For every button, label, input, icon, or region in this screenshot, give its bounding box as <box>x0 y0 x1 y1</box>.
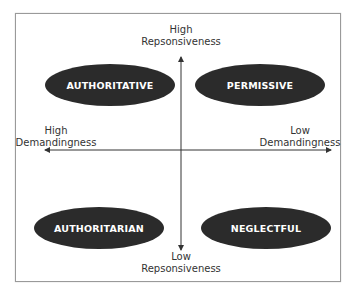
label-line: Low <box>256 125 344 137</box>
permissive-ellipse: PERMISSIVE <box>195 64 325 106</box>
label-line: Repsonsiveness <box>131 263 231 275</box>
label-line: High <box>14 125 98 137</box>
low-responsiveness-label: Low Repsonsiveness <box>131 251 231 275</box>
label-line: Low <box>131 251 231 263</box>
authoritative-label: AUTHORITATIVE <box>67 80 154 91</box>
low-demandingness-label: Low Demandingness <box>256 125 344 149</box>
label-line: Demandingness <box>14 137 98 149</box>
label-line: Repsonsiveness <box>131 36 231 48</box>
authoritarian-label: AUTHORITARIAN <box>54 223 144 234</box>
label-line: Demandingness <box>256 137 344 149</box>
authoritative-ellipse: AUTHORITATIVE <box>45 64 175 106</box>
neglectful-label: NEGLECTFUL <box>231 223 302 234</box>
permissive-label: PERMISSIVE <box>227 80 293 91</box>
label-line: High <box>131 24 231 36</box>
high-demandingness-label: High Demandingness <box>14 125 98 149</box>
high-responsiveness-label: High Repsonsiveness <box>131 24 231 48</box>
neglectful-ellipse: NEGLECTFUL <box>201 207 331 249</box>
authoritarian-ellipse: AUTHORITARIAN <box>34 207 164 249</box>
